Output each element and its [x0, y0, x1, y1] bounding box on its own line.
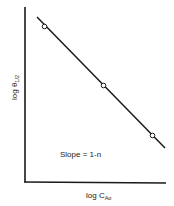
x-axis-label-sub: Ao — [105, 195, 112, 201]
data-point-3 — [150, 133, 155, 138]
y-axis-label: log θ1/2 — [10, 75, 20, 100]
x-axis-label: log CAo — [86, 191, 111, 201]
chart: Slope = 1-n log CAo log θ1/2 — [0, 0, 174, 206]
data-point-1 — [42, 24, 47, 29]
x-axis-label-main: log C — [86, 191, 105, 200]
y-axis-label-sub: 1/2 — [14, 75, 20, 83]
y-axis-label-main: log θ — [10, 82, 19, 100]
fit-line — [37, 17, 165, 148]
slope-annotation: Slope = 1-n — [60, 150, 101, 159]
data-point-2 — [101, 83, 106, 88]
x-axis — [24, 182, 166, 183]
